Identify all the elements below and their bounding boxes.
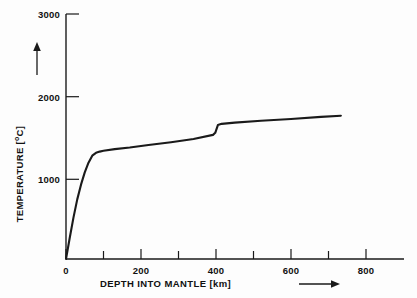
y-axis-title-suffix: C] [14,126,25,137]
mantle-geotherm-figure: 3000 2000 1000 0 200 400 600 800 TEMPERA… [0,0,417,298]
y-tick-label-3000: 3000 [26,9,60,20]
y-axis-ticks [66,14,79,179]
x-tick-label-0: 0 [63,265,68,276]
x-axis-arrow-icon [299,280,340,288]
y-tick-label-2000: 2000 [26,92,60,103]
x-tick-label-200: 200 [133,265,149,276]
geotherm-curve [66,116,341,259]
y-axis-arrow-icon [33,42,41,75]
y-tick-label-1000: 1000 [26,174,60,185]
y-axis-title-prefix: TEMPERATURE [ [14,141,25,222]
x-axis-title: DEPTH INTO MANTLE [km] [100,278,231,289]
y-axis-title-degree: o [13,136,20,141]
y-axis-title: TEMPERATURE [oC] [13,109,25,239]
x-axis-major-ticks [66,249,366,259]
x-tick-label-800: 800 [358,265,374,276]
x-tick-label-600: 600 [283,265,299,276]
chart-canvas [0,0,417,298]
x-tick-label-400: 400 [208,265,224,276]
